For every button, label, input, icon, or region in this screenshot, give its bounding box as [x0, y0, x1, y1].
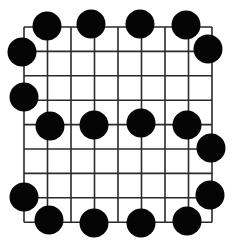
- stone-black-c1-r4[interactable]: [36, 112, 65, 141]
- stone-black-c8-r7[interactable]: [196, 181, 225, 210]
- stone-black-c5-r0[interactable]: [126, 10, 155, 39]
- stone-black-c0-r7[interactable]: [10, 183, 39, 212]
- stone-black-c7-r4[interactable]: [173, 111, 202, 140]
- stone-black-c8-r5[interactable]: [197, 134, 226, 163]
- stone-black-c3-r8[interactable]: [80, 209, 109, 238]
- game-board[interactable]: [0, 0, 233, 242]
- stone-black-c1-r0[interactable]: [33, 12, 62, 41]
- stone-black-c5-r4[interactable]: [127, 109, 156, 138]
- stone-black-c7-r0[interactable]: [172, 11, 201, 40]
- stone-black-c1-r8[interactable]: [35, 206, 64, 235]
- stone-black-c0-r3[interactable]: [10, 83, 39, 112]
- stone-black-c3-r0[interactable]: [77, 10, 106, 39]
- stone-black-c5-r8[interactable]: [127, 209, 156, 238]
- stone-black-c7-r8[interactable]: [173, 207, 202, 236]
- stone-black-c3-r4[interactable]: [80, 111, 109, 140]
- stone-black-c8-r1[interactable]: [194, 35, 223, 64]
- stone-black-c0-r1[interactable]: [8, 38, 37, 67]
